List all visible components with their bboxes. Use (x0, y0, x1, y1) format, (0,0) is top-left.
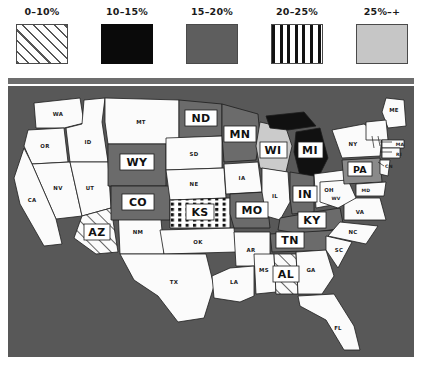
state-label-NY: NY (348, 141, 357, 147)
state-label-VA: VA (356, 209, 365, 215)
legend-label-20-25: 20–25% (255, 6, 339, 18)
us-map: WA OR ID MT NV CA UT NM SD NE OK TX IA I… (8, 86, 414, 357)
legend: 0–10% 10–15% 15–20% 20–25% 25%–+ (0, 0, 422, 78)
state-label-MA: MA (396, 142, 405, 147)
state-label-LA: LA (230, 279, 239, 285)
state-label-AR: AR (247, 247, 256, 253)
state-label-NM: NM (133, 229, 143, 235)
state-label-WV: WV (331, 196, 340, 201)
big-label-CO-text: CO (129, 196, 147, 209)
big-label-CO: CO (122, 194, 154, 210)
legend-item-20-25[interactable]: 20–25% (255, 6, 339, 64)
legend-swatch-diagonal-hatch-icon (16, 24, 68, 64)
legend-divider (8, 78, 414, 84)
big-label-WY-text: WY (127, 156, 149, 169)
big-label-TN: TN (276, 232, 304, 248)
state-label-MS: MS (259, 267, 269, 273)
big-label-MN: MN (224, 126, 256, 142)
big-label-ND: ND (185, 110, 217, 126)
big-label-MO-text: MO (241, 204, 262, 217)
legend-item-10-15[interactable]: 10–15% (85, 6, 169, 64)
legend-item-0-10[interactable]: 0–10% (0, 6, 84, 64)
big-label-TN-text: TN (281, 234, 299, 247)
legend-label-15-20: 15–20% (170, 6, 254, 18)
legend-swatch-solid-black-icon (101, 24, 153, 64)
state-label-OH: OH (324, 187, 334, 193)
big-label-KS: KS (186, 204, 214, 220)
state-label-UT: UT (86, 185, 95, 191)
state-label-OK: OK (193, 239, 203, 245)
big-label-MI-text: MI (302, 144, 318, 157)
state-label-MD: MD (362, 188, 371, 193)
state-label-NC: NC (348, 229, 357, 235)
state-label-SD: SD (190, 151, 199, 157)
legend-label-25-plus: 25%–+ (340, 6, 422, 18)
legend-item-25-plus[interactable]: 25%–+ (340, 6, 422, 64)
big-label-MN-text: MN (230, 128, 251, 141)
big-label-WI: WI (260, 142, 287, 158)
big-label-KS-text: KS (191, 206, 208, 219)
big-label-KY: KY (298, 212, 326, 228)
state-label-TX: TX (170, 279, 179, 285)
legend-swatch-light-gray-icon (356, 24, 408, 64)
legend-swatch-dashed-grid-icon (271, 24, 323, 64)
big-label-MO: MO (236, 202, 268, 218)
big-label-WY: WY (120, 154, 154, 170)
state-label-WA: WA (53, 111, 64, 117)
big-label-WI-text: WI (264, 144, 281, 157)
state-label-CN: CN (385, 164, 393, 169)
state-label-OR: OR (40, 143, 50, 149)
state-label-NV: NV (53, 185, 63, 191)
big-label-AL: AL (273, 266, 299, 282)
legend-label-10-15: 10–15% (85, 6, 169, 18)
big-label-PA-text: PA (353, 164, 367, 175)
state-label-IL: IL (272, 193, 278, 199)
choropleth-map-figure: 0–10% 10–15% 15–20% 20–25% 25%–+ (0, 0, 422, 367)
big-label-MI: MI (298, 142, 323, 158)
big-label-AZ-text: AZ (88, 226, 105, 239)
big-label-AZ: AZ (84, 224, 110, 240)
big-label-IN-text: IN (298, 188, 312, 201)
big-label-PA: PA (348, 162, 372, 176)
state-label-SC: SC (335, 247, 343, 253)
state-label-CA: CA (28, 197, 37, 203)
big-label-ND-text: ND (191, 112, 210, 125)
us-map-svg: WA OR ID MT NV CA UT NM SD NE OK TX IA I… (8, 86, 414, 357)
state-NH-VT[interactable] (366, 120, 388, 140)
state-label-ME: ME (389, 107, 399, 113)
state-MD-DE[interactable] (356, 182, 386, 196)
big-label-AL-text: AL (278, 268, 294, 281)
state-label-ID: ID (84, 139, 91, 145)
state-label-IA: IA (239, 175, 246, 181)
big-label-IN: IN (293, 186, 317, 202)
legend-item-15-20[interactable]: 15–20% (170, 6, 254, 64)
big-label-KY-text: KY (303, 214, 321, 227)
state-label-RI: RI (396, 152, 402, 157)
state-label-FL: FL (334, 325, 342, 331)
legend-label-0-10: 0–10% (0, 6, 84, 18)
state-label-GA: GA (306, 267, 316, 273)
state-label-NE: NE (190, 181, 199, 187)
state-label-MT: MT (136, 119, 146, 125)
legend-swatch-dark-gray-icon (186, 24, 238, 64)
